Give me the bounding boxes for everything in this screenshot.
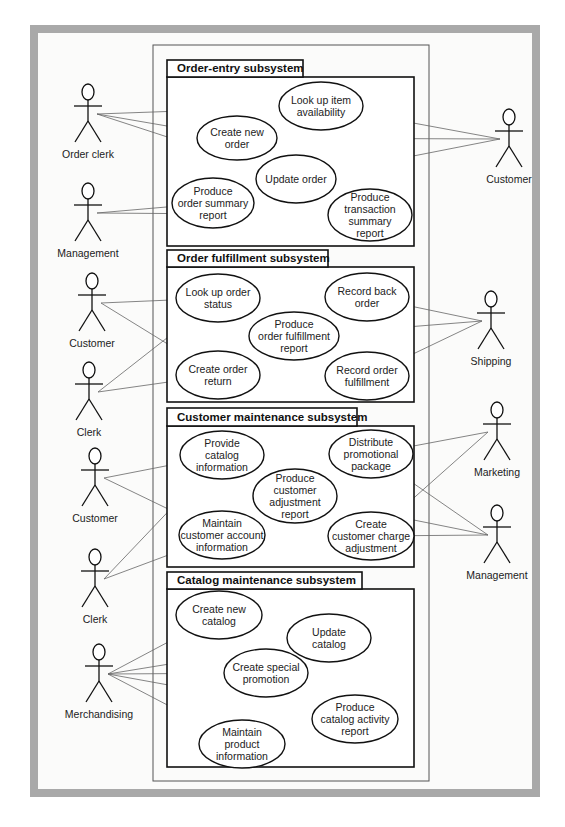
- use-case-label: order summary: [178, 197, 249, 209]
- use-case-label: promotion: [243, 673, 290, 685]
- use-case-label: catalog: [312, 638, 346, 650]
- use-case-label: Produce: [275, 472, 314, 484]
- use-case-label: adjustment: [345, 542, 396, 554]
- actor-label: Order clerk: [62, 148, 115, 160]
- actor-label: Merchandising: [65, 708, 133, 720]
- actor-head-icon: [485, 291, 497, 307]
- use-case-label: report: [280, 342, 308, 354]
- actor-head-icon: [93, 644, 105, 660]
- use-case-label: summary: [348, 215, 392, 227]
- use-case-distribute-promotional-package[interactable]: Distributepromotionalpackage: [329, 430, 413, 478]
- use-case-create-new-catalog[interactable]: Create newcatalog: [176, 591, 262, 639]
- use-case-label: Produce: [274, 318, 313, 330]
- use-case-label: Record back: [338, 285, 398, 297]
- use-case-produce-catalog-activity-report[interactable]: Producecatalog activityreport: [312, 695, 398, 743]
- use-case-create-special-promotion[interactable]: Create specialpromotion: [224, 649, 308, 697]
- use-case-label: catalog activity: [321, 713, 391, 725]
- use-case-label: order: [225, 138, 250, 150]
- use-case-record-back-order[interactable]: Record backorder: [325, 273, 409, 321]
- use-case-produce-transaction-summary-report[interactable]: Producetransactionsummaryreport: [328, 189, 412, 241]
- actor-label: Management: [57, 247, 118, 259]
- actor-label: Customer: [486, 173, 532, 185]
- use-case-look-up-order-status[interactable]: Look up orderstatus: [176, 274, 260, 322]
- use-case-label: report: [199, 209, 227, 221]
- actor-head-icon: [89, 448, 101, 464]
- subsystem-title: Catalog maintenance subsystem: [177, 574, 356, 586]
- use-case-update-order[interactable]: Update order: [256, 155, 336, 203]
- use-case-label: information: [196, 541, 248, 553]
- use-case-label: availability: [297, 106, 346, 118]
- use-case-maintain-customer-account-information[interactable]: Maintaincustomer accountinformation: [179, 511, 265, 559]
- use-case-look-up-item-availability[interactable]: Look up itemavailability: [279, 82, 363, 130]
- use-case-produce-customer-adjustment-report[interactable]: Producecustomeradjustmentreport: [253, 469, 337, 523]
- use-case-label: adjustment: [269, 496, 320, 508]
- actor-label: Clerk: [77, 426, 102, 438]
- actor-head-icon: [86, 273, 98, 289]
- use-case-label: product: [224, 738, 259, 750]
- actor-head-icon: [82, 183, 94, 199]
- use-case-label: report: [356, 227, 384, 239]
- use-case-label: Record order: [336, 364, 398, 376]
- actor-head-icon: [82, 84, 94, 100]
- subsystem-title: Order-entry subsystem: [177, 62, 304, 74]
- use-case-record-order-fulfillment[interactable]: Record orderfulfillment: [325, 352, 409, 400]
- use-case-maintain-product-information[interactable]: Maintainproductinformation: [199, 720, 285, 768]
- use-case-label: transaction: [344, 203, 396, 215]
- use-case-label: promotional: [344, 448, 399, 460]
- use-case-create-customer-charge-adjustment[interactable]: Createcustomer chargeadjustment: [328, 512, 414, 560]
- actor-label: Customer: [72, 512, 118, 524]
- use-case-label: Create: [355, 518, 387, 530]
- use-case-label: package: [351, 460, 391, 472]
- use-case-update-catalog[interactable]: Updatecatalog: [287, 614, 371, 662]
- use-case-label: Look up order: [186, 286, 251, 298]
- use-case-label: Look up item: [291, 94, 351, 106]
- use-case-label: report: [281, 508, 309, 520]
- actor-label: Management: [466, 569, 527, 581]
- use-case-label: order fulfillment: [258, 330, 330, 342]
- use-case-label: Distribute: [349, 436, 394, 448]
- actor-head-icon: [491, 505, 503, 521]
- use-case-label: fulfillment: [345, 376, 389, 388]
- use-case-label: order: [355, 297, 380, 309]
- use-case-label: Produce: [350, 191, 389, 203]
- actor-label: Marketing: [474, 466, 520, 478]
- use-case-label: Produce: [335, 701, 374, 713]
- actor-head-icon: [491, 402, 503, 418]
- actor-label: Clerk: [83, 613, 108, 625]
- use-case-label: Update order: [265, 173, 327, 185]
- use-case-label: customer: [273, 484, 317, 496]
- use-case-label: information: [196, 461, 248, 473]
- use-case-label: customer account: [181, 529, 264, 541]
- use-case-label: Maintain: [202, 517, 242, 529]
- use-case-label: report: [341, 725, 369, 737]
- actor-head-icon: [83, 362, 95, 378]
- use-case-label: catalog: [205, 449, 239, 461]
- use-case-label: Provide: [204, 437, 240, 449]
- use-case-produce-order-fulfillment-report[interactable]: Produceorder fulfillmentreport: [249, 312, 339, 360]
- actor-label: Shipping: [471, 355, 512, 367]
- use-case-diagram: Order-entry subsystemOrder fulfillment s…: [0, 0, 565, 827]
- actor-head-icon: [503, 109, 515, 125]
- use-case-label: Maintain: [222, 726, 262, 738]
- use-case-label: Create new: [210, 126, 264, 138]
- subsystem-title: Customer maintenance subsystem: [177, 411, 367, 423]
- use-case-label: Create order: [189, 363, 248, 375]
- use-case-label: information: [216, 750, 268, 762]
- use-case-label: Update: [312, 626, 346, 638]
- use-case-label: customer charge: [332, 530, 410, 542]
- use-case-create-new-order[interactable]: Create neworder: [197, 116, 277, 160]
- actor-head-icon: [89, 549, 101, 565]
- use-case-label: catalog: [202, 615, 236, 627]
- actor-label: Customer: [69, 337, 115, 349]
- use-case-label: Produce: [193, 185, 232, 197]
- use-case-label: status: [204, 298, 232, 310]
- use-case-provide-catalog-information[interactable]: Providecataloginformation: [180, 431, 264, 479]
- use-case-create-order-return[interactable]: Create orderreturn: [176, 351, 260, 399]
- use-case-label: return: [204, 375, 232, 387]
- subsystem-title: Order fulfillment subsystem: [177, 252, 330, 264]
- use-case-produce-order-summary-report[interactable]: Produceorder summaryreport: [172, 178, 254, 228]
- use-case-label: Create new: [192, 603, 246, 615]
- use-case-label: Create special: [232, 661, 299, 673]
